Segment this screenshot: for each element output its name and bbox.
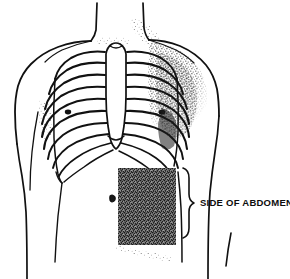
navel bbox=[110, 195, 115, 202]
anatomical-figure: SIDE OF ABDOMEN bbox=[0, 0, 290, 279]
side-of-abdomen-label: SIDE OF ABDOMEN bbox=[200, 197, 290, 208]
anatomy-illustration-svg: SIDE OF ABDOMEN bbox=[0, 0, 290, 279]
abdomen-region-tone bbox=[118, 168, 176, 245]
left-nipple bbox=[65, 110, 71, 115]
side-of-abdomen-shaded-region bbox=[118, 168, 176, 245]
